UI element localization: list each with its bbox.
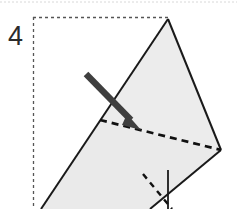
origami-step-figure: 4 bbox=[0, 0, 237, 209]
step-number-label: 4 bbox=[8, 21, 23, 51]
figure-canvas: 4 bbox=[0, 0, 237, 209]
